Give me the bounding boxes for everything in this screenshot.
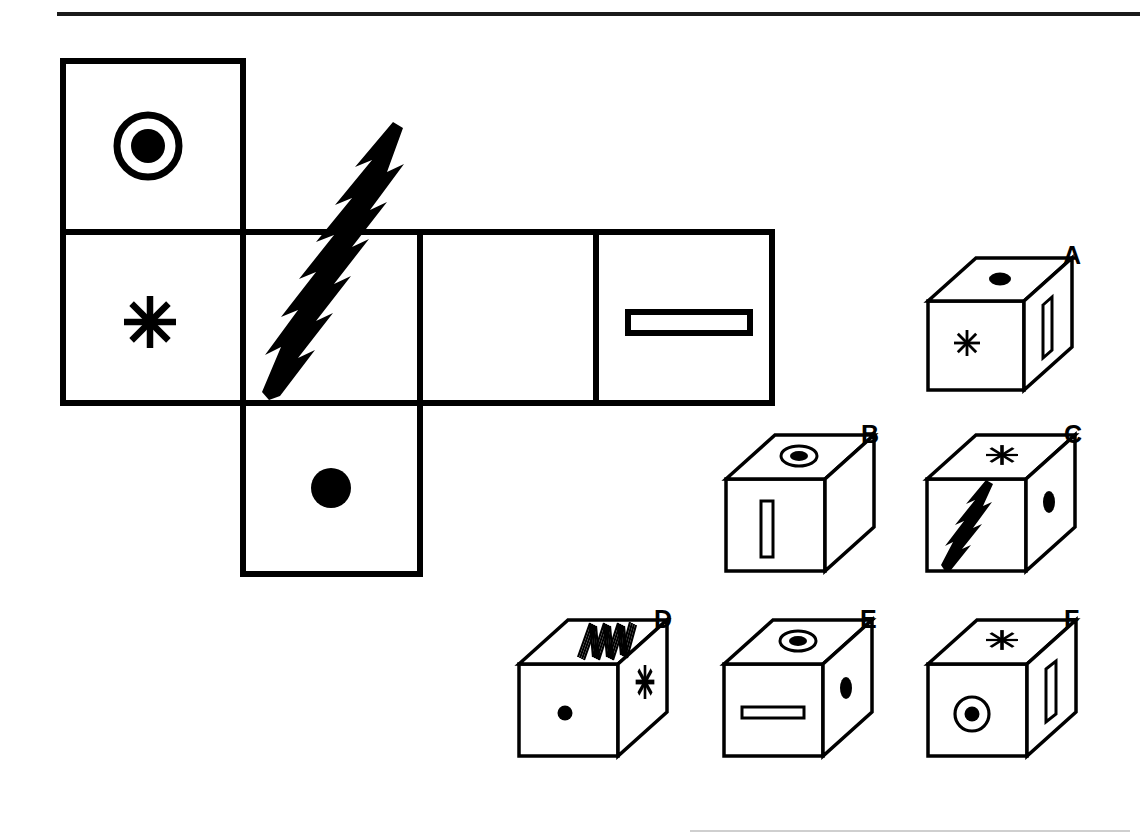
asterisk-icon (124, 296, 176, 348)
net-face-zigzag (243, 122, 420, 403)
asterisk-icon (986, 630, 1018, 650)
net-face-asterisk (63, 232, 243, 403)
puzzle-page: A B C D E F (0, 0, 1140, 839)
asterisk-icon (986, 445, 1018, 465)
vertical-bar-icon (1043, 297, 1052, 358)
vertical-bar-icon (1046, 661, 1056, 722)
horizontal-bar-icon (628, 312, 750, 333)
cube-label-d: D (654, 607, 672, 632)
cube-label-a: A (1063, 243, 1081, 268)
net-face-blank (420, 232, 596, 403)
solid-dot-icon (989, 273, 1011, 286)
cube-label-c: C (1064, 422, 1082, 447)
cube-label-b: B (861, 422, 879, 447)
ringed-dot-icon-inner (965, 707, 980, 722)
solid-dot-icon (311, 468, 351, 508)
cube-net (63, 61, 772, 574)
ringed-dot-icon-inner (790, 451, 808, 461)
cube-option-a[interactable] (928, 258, 1072, 390)
cube-label-e: E (860, 607, 877, 632)
cube-option-b[interactable] (726, 435, 874, 571)
puzzle-drawing (0, 0, 1140, 839)
solid-dot-icon (1043, 491, 1055, 513)
ringed-dot-icon-inner (789, 636, 807, 646)
net-face-bar (596, 232, 772, 403)
horizontal-bar-icon (742, 707, 804, 718)
ringed-dot-icon-inner (131, 129, 165, 163)
cube-option-c[interactable] (927, 435, 1075, 571)
net-face-ringed-dot (63, 61, 243, 232)
net-face-dot (243, 403, 420, 574)
asterisk-icon (954, 330, 980, 356)
vertical-bar-icon (761, 501, 773, 557)
cube-option-f[interactable] (928, 620, 1076, 756)
cube-label-f: F (1064, 607, 1079, 632)
cube-option-e[interactable] (724, 620, 872, 756)
solid-dot-icon (558, 706, 573, 721)
solid-dot-icon (840, 677, 852, 699)
cube-option-d[interactable] (519, 620, 667, 756)
asterisk-icon (636, 665, 655, 699)
